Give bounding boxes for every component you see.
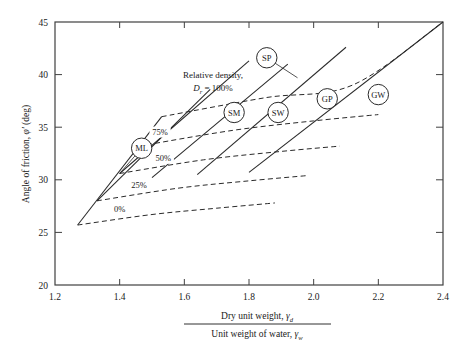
y-tick-label: 35 bbox=[39, 123, 49, 133]
soil-marker-label: SM bbox=[228, 108, 241, 118]
x-tick-label: 1.8 bbox=[243, 292, 255, 302]
soil-marker-label: ML bbox=[135, 143, 148, 153]
soil-marker-SW: SW bbox=[268, 102, 288, 122]
y-tick-label: 30 bbox=[39, 175, 49, 185]
soil-marker-label: GP bbox=[322, 94, 333, 104]
soil-marker-SM: SM bbox=[224, 102, 244, 122]
soil-marker-label: SP bbox=[262, 53, 272, 63]
chart-svg: 1.21.41.61.82.02.22.4 202530354045 0%25%… bbox=[0, 0, 464, 349]
chart-background bbox=[0, 0, 464, 349]
soil-marker-GW: GW bbox=[368, 84, 388, 104]
soil-marker-GP: GP bbox=[317, 89, 337, 109]
y-tick-label: 45 bbox=[39, 18, 49, 28]
y-axis-title: Angle of friction, φ′ (deg) bbox=[21, 105, 32, 203]
soil-marker-label: GW bbox=[371, 90, 385, 100]
y-tick-label: 25 bbox=[39, 228, 49, 238]
density-label-50pct: 50% bbox=[156, 153, 172, 163]
relative-density-annotation-title: Relative density, bbox=[183, 70, 243, 80]
y-tick-label: 20 bbox=[39, 281, 49, 291]
density-label-25pct: 25% bbox=[131, 180, 147, 190]
chart-figure: 1.21.41.61.82.02.22.4 202530354045 0%25%… bbox=[0, 0, 464, 349]
soil-marker-SP: SP bbox=[257, 48, 277, 68]
x-tick-label: 1.2 bbox=[49, 292, 61, 302]
density-label-75pct: 75% bbox=[152, 127, 168, 137]
x-tick-label: 1.6 bbox=[178, 292, 190, 302]
relative-density-annotation-value: Dr = 100% bbox=[192, 83, 233, 95]
x-tick-label: 1.4 bbox=[114, 292, 126, 302]
x-tick-label: 2.0 bbox=[308, 292, 320, 302]
soil-marker-ML: ML bbox=[131, 138, 151, 158]
y-tick-label: 40 bbox=[39, 70, 49, 80]
x-axis-title-denominator: Unit weight of water, γw bbox=[211, 329, 303, 341]
x-tick-label: 2.2 bbox=[372, 292, 384, 302]
x-axis-title-numerator: Dry unit weight, γd bbox=[221, 311, 294, 323]
density-label-0pct: 0% bbox=[114, 204, 125, 214]
x-tick-label: 2.4 bbox=[437, 292, 449, 302]
soil-marker-label: SW bbox=[272, 108, 285, 118]
